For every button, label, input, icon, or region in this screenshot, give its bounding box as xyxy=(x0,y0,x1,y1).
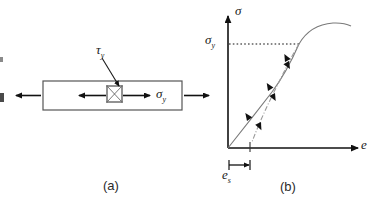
loading-curve xyxy=(228,23,351,148)
residual-strain-label: es xyxy=(222,167,231,185)
sigma-axis-label: σ xyxy=(235,3,241,19)
panel-b-caption: (b) xyxy=(280,179,296,194)
panel-a-caption: (a) xyxy=(103,178,119,193)
tau-y-label: τy xyxy=(96,42,104,60)
figure-drawing xyxy=(0,0,391,209)
figure-root: τy σy σ σy e es (a) (b) xyxy=(0,0,391,209)
unloading-direction-arrows xyxy=(255,61,293,132)
sigma-y-bar-label: σy xyxy=(156,86,166,104)
strain-axis-label: e xyxy=(361,137,367,153)
sigma-y-tick-label: σy xyxy=(205,32,215,50)
panel-a-group xyxy=(0,57,209,110)
cropped-edge-marks xyxy=(0,57,4,102)
panel-b-group xyxy=(228,16,358,170)
loading-direction-arrows xyxy=(243,52,291,121)
residual-strain-dimension xyxy=(229,160,250,170)
stress-element xyxy=(106,85,123,103)
